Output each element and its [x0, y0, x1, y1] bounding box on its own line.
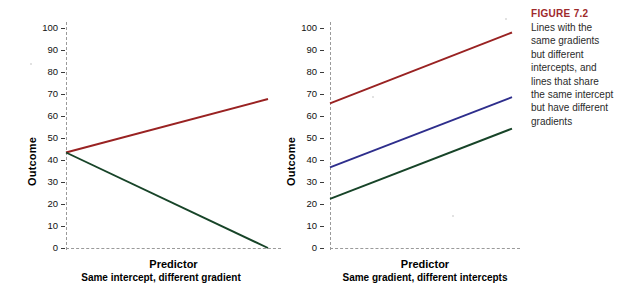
left-ytick-20: 20: [32, 199, 58, 208]
right-x-axis-title: Predictor: [330, 258, 520, 270]
figure-caption: FIGURE 7.2 Lines with the same gradients…: [531, 8, 615, 128]
right-tickmark-10: [320, 226, 324, 227]
left-line-red: [66, 99, 268, 153]
right-tickmark-70: [320, 94, 324, 95]
right-tickmark-60: [320, 116, 324, 117]
figure-caption-body: Lines with the same gradients but differ…: [531, 21, 615, 128]
left-tickmark-10: [61, 226, 65, 227]
right-line-blue: [330, 97, 512, 167]
scan-speckle: [505, 18, 507, 20]
right-tickmark-90: [320, 50, 324, 51]
right-ytick-30: 30: [291, 177, 317, 186]
left-tickmark-40: [61, 160, 65, 161]
left-tickmark-0: [61, 248, 65, 249]
left-ytick-80: 80: [32, 67, 58, 76]
left-tickmark-80: [61, 72, 65, 73]
left-ytick-50: 50: [32, 133, 58, 142]
right-tickmark-40: [320, 160, 324, 161]
figure-7-2: Outcome 100 90 80 70 60 50 40 30 20 10 0: [0, 0, 618, 298]
left-panel-subtitle: Same intercept, different gradient: [16, 272, 306, 283]
right-ytick-20: 20: [291, 199, 317, 208]
left-ytick-90: 90: [32, 45, 58, 54]
right-ytick-10: 10: [291, 221, 317, 230]
left-tickmark-60: [61, 116, 65, 117]
left-tickmark-70: [61, 94, 65, 95]
left-plot-area: [66, 28, 271, 250]
left-ytick-70: 70: [32, 89, 58, 98]
left-tickmark-50: [61, 138, 65, 139]
left-ytick-40: 40: [32, 155, 58, 164]
right-tickmark-100: [320, 28, 324, 29]
right-ytick-60: 60: [291, 111, 317, 120]
right-ytick-40: 40: [291, 155, 317, 164]
left-ytick-30: 30: [32, 177, 58, 186]
right-line-red: [330, 33, 512, 104]
right-ytick-50: 50: [291, 133, 317, 142]
right-tickmark-0: [320, 248, 324, 249]
scan-speckle: [372, 96, 374, 98]
left-tickmark-30: [61, 182, 65, 183]
right-ytick-70: 70: [291, 89, 317, 98]
scan-speckle: [452, 215, 454, 217]
right-tickmark-50: [320, 138, 324, 139]
left-ytick-10: 10: [32, 221, 58, 230]
left-ytick-0: 0: [32, 243, 58, 252]
left-tickmark-90: [61, 50, 65, 51]
right-tickmark-20: [320, 204, 324, 205]
left-x-axis-title: Predictor: [66, 258, 281, 270]
chart-panel-left: Outcome 100 90 80 70 60 50 40 30 20 10 0: [0, 0, 300, 298]
right-tickmark-30: [320, 182, 324, 183]
left-line-green: [66, 153, 268, 249]
scan-speckle: [30, 63, 32, 65]
left-ytick-60: 60: [32, 111, 58, 120]
left-ytick-100: 100: [32, 23, 58, 32]
right-tickmark-80: [320, 72, 324, 73]
right-line-green: [330, 129, 512, 199]
left-tickmark-100: [61, 28, 65, 29]
right-panel-subtitle: Same gradient, different intercepts: [290, 272, 560, 283]
right-ytick-80: 80: [291, 67, 317, 76]
right-ytick-100: 100: [291, 23, 317, 32]
right-ytick-0: 0: [291, 243, 317, 252]
chart-panel-right: Outcome 100 90 80 70 60 50 40 30 20 10 0: [285, 0, 520, 298]
right-ytick-90: 90: [291, 45, 317, 54]
left-tickmark-20: [61, 204, 65, 205]
figure-caption-heading: FIGURE 7.2: [531, 8, 615, 19]
right-plot-area: [330, 28, 515, 250]
